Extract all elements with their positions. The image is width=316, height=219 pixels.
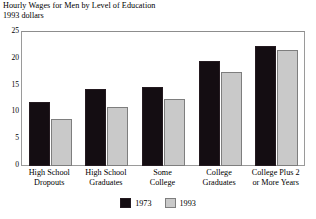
bar-1973-1 — [85, 89, 106, 166]
bar-group — [199, 32, 242, 166]
legend-label-1993: 1993 — [180, 199, 196, 208]
bar-1993-1 — [107, 107, 128, 166]
bar-group — [29, 32, 72, 166]
bar-group — [142, 32, 185, 166]
bar-1973-0 — [29, 102, 50, 166]
bar-1973-2 — [142, 87, 163, 166]
y-axis-label: 15 — [11, 81, 19, 89]
bar-1993-3 — [221, 72, 242, 166]
bar-1993-0 — [51, 119, 72, 166]
x-axis-category-labels: High School DropoutsHigh School Graduate… — [21, 168, 305, 196]
bar-chart: Hourly Wages for Men by Level of Educati… — [0, 0, 316, 219]
legend-label-1973: 1973 — [135, 199, 151, 208]
bar-1993-4 — [277, 50, 298, 166]
x-axis-label: College Plus 2 or More Years — [241, 168, 310, 187]
plot-area — [22, 32, 305, 166]
legend-swatch-1973 — [120, 198, 131, 208]
y-axis-label: 5 — [15, 134, 19, 142]
y-axis-label: 10 — [11, 108, 19, 116]
legend-entry-1973: 1973 — [120, 198, 151, 208]
chart-subtitle: 1993 dollars — [3, 11, 44, 21]
y-axis-label: 25 — [11, 27, 19, 35]
y-axis-tick-labels: 0510152025 — [0, 31, 19, 166]
chart-title: Hourly Wages for Men by Level of Educati… — [3, 1, 156, 11]
bar-group — [255, 32, 298, 166]
bar-1993-2 — [164, 99, 185, 166]
chart-legend: 1973 1993 — [0, 198, 316, 208]
bar-group — [85, 32, 128, 166]
bar-1973-3 — [199, 61, 220, 166]
bar-1973-4 — [255, 46, 276, 166]
legend-swatch-1993 — [165, 198, 176, 208]
legend-entry-1993: 1993 — [165, 198, 196, 208]
y-axis-label: 20 — [11, 54, 19, 62]
